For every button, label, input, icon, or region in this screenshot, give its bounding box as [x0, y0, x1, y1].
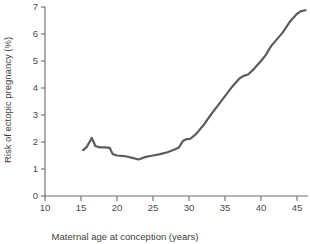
y-tick-label: 1	[33, 163, 38, 174]
data-series-line	[83, 10, 305, 159]
y-tick-label: 2	[33, 136, 38, 147]
y-tick-label: 5	[33, 55, 38, 66]
y-tick-label: 6	[33, 28, 38, 39]
y-tick-label: 0	[33, 190, 38, 201]
x-tick-label: 40	[256, 202, 267, 213]
x-tick-label: 25	[148, 202, 159, 213]
x-tick-label: 45	[292, 202, 303, 213]
y-tick-label: 3	[33, 109, 38, 120]
y-axis-title: Risk of ectopic pregnancy (%)	[2, 37, 13, 163]
chart-plot-area: 01234567 1015202530354045 Maternal age a…	[0, 0, 310, 244]
x-axis-title: Maternal age at conception (years)	[52, 231, 199, 242]
x-tick-label: 30	[184, 202, 195, 213]
x-tick-label: 10	[40, 202, 51, 213]
x-tick-label: 35	[220, 202, 231, 213]
ectopic-pregnancy-risk-chart: 01234567 1015202530354045 Maternal age a…	[0, 0, 310, 244]
x-tick-label: 20	[112, 202, 123, 213]
y-tick-label: 4	[33, 82, 38, 93]
y-tick-label: 7	[33, 1, 38, 12]
y-axis-ticks: 01234567	[33, 1, 45, 201]
x-tick-label: 15	[76, 202, 87, 213]
x-axis-ticks: 1015202530354045	[40, 196, 303, 213]
